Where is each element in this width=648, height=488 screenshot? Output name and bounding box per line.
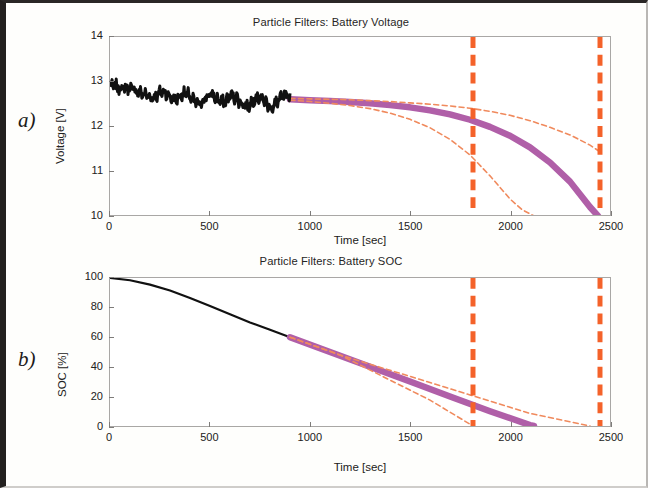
figure: Particle Filters: Battery Voltage a) Vol… <box>12 6 648 488</box>
y-tick-mark <box>109 81 114 82</box>
plot-area-voltage <box>109 36 611 216</box>
x-tick-label: 2500 <box>581 431 641 443</box>
y-tick-mark <box>109 427 114 428</box>
x-tick-mark <box>410 211 411 216</box>
chart-title-voltage: Particle Filters: Battery Voltage <box>12 16 648 28</box>
x-tick-mark <box>611 211 612 216</box>
y-tick-label: 80 <box>59 300 103 312</box>
y-tick-mark <box>109 397 114 398</box>
x-tick-label: 2000 <box>481 220 541 232</box>
x-tick-mark <box>511 211 512 216</box>
y-tick-label: 14 <box>59 29 103 41</box>
x-tick-label: 0 <box>79 220 139 232</box>
x-tick-mark <box>611 422 612 427</box>
x-tick-mark <box>310 422 311 427</box>
x-tick-mark <box>310 211 311 216</box>
panel-voltage: Particle Filters: Battery Voltage a) Vol… <box>12 6 648 249</box>
x-tick-label: 1500 <box>380 431 440 443</box>
y-tick-mark <box>109 171 114 172</box>
y-tick-label: 12 <box>59 119 103 131</box>
y-tick-label: 60 <box>59 330 103 342</box>
page-border: Particle Filters: Battery Voltage a) Vol… <box>0 0 648 488</box>
y-tick-label: 100 <box>59 270 103 282</box>
y-tick-label: 40 <box>59 360 103 372</box>
series-measured-soc <box>110 278 290 337</box>
y-tick-mark <box>109 126 114 127</box>
x-tick-mark <box>109 211 110 216</box>
y-tick-label: 11 <box>59 164 103 176</box>
y-tick-label: 20 <box>59 390 103 402</box>
y-tick-mark <box>109 36 114 37</box>
panel-label-a: a) <box>18 108 36 133</box>
y-tick-mark <box>109 367 114 368</box>
panel-label-b: b) <box>18 347 36 372</box>
x-tick-label: 1000 <box>280 431 340 443</box>
series-lower-bound <box>290 100 534 215</box>
x-tick-mark <box>109 422 110 427</box>
y-tick-mark <box>109 277 114 278</box>
y-tick-mark <box>109 337 114 338</box>
x-tick-label: 2000 <box>481 431 541 443</box>
series-measured-voltage-noise <box>110 79 290 112</box>
x-tick-label: 500 <box>179 431 239 443</box>
x-axis-label-voltage: Time [sec] <box>109 234 611 246</box>
x-tick-mark <box>209 422 210 427</box>
x-tick-mark <box>410 422 411 427</box>
chart-title-soc: Particle Filters: Battery SOC <box>12 255 648 267</box>
series-predicted-voltage-median <box>290 99 598 215</box>
x-tick-label: 1000 <box>280 220 340 232</box>
panel-soc: Particle Filters: Battery SOC b) SOC [%]… <box>12 249 648 488</box>
y-tick-mark <box>109 307 114 308</box>
x-axis-label-soc: Time [sec] <box>109 461 611 473</box>
x-tick-label: 1500 <box>380 220 440 232</box>
y-tick-mark <box>109 216 114 217</box>
y-axis-label-voltage: Voltage [V] <box>54 108 66 164</box>
series-upper-bound <box>290 98 600 151</box>
plot-area-soc <box>109 277 611 427</box>
x-tick-label: 2500 <box>581 220 641 232</box>
x-tick-mark <box>209 211 210 216</box>
x-tick-mark <box>511 422 512 427</box>
x-tick-label: 0 <box>79 431 139 443</box>
y-tick-label: 13 <box>59 74 103 86</box>
x-tick-label: 500 <box>179 220 239 232</box>
